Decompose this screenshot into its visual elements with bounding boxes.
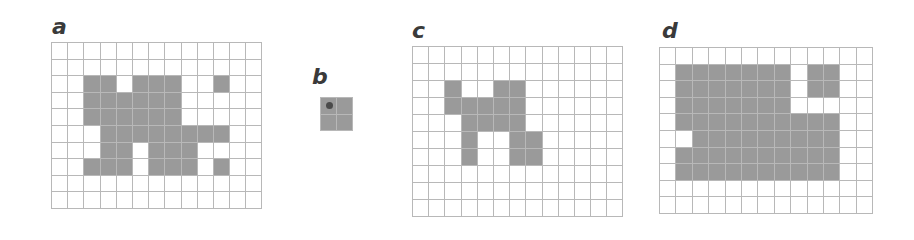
grid-cell (607, 47, 623, 64)
grid-cell (117, 192, 133, 209)
grid-a (51, 42, 262, 209)
grid-cell (337, 98, 353, 115)
grid-cell (758, 181, 774, 198)
grid-cell (857, 131, 873, 148)
grid-cell (660, 65, 676, 82)
grid-cell (607, 183, 623, 200)
grid-cell (230, 143, 246, 160)
grid-cell (575, 200, 591, 217)
grid-cell (413, 183, 429, 200)
grid-cell (742, 197, 758, 214)
grid-cell (101, 76, 117, 93)
grid-cell (117, 76, 133, 93)
grid-cell (149, 176, 165, 193)
grid-cell (230, 93, 246, 110)
grid-cell (117, 126, 133, 143)
grid-cell (526, 200, 542, 217)
grid-cell (591, 47, 607, 64)
grid-cell (52, 93, 68, 110)
grid-cell (52, 76, 68, 93)
grid-cell (101, 126, 117, 143)
grid-cell (149, 43, 165, 60)
grid-cell (133, 126, 149, 143)
grid-cell (775, 48, 791, 65)
grid-cell (543, 183, 559, 200)
grid-cell (791, 148, 807, 165)
grid-cell (726, 98, 742, 115)
grid-cell (693, 181, 709, 198)
grid-cell (246, 159, 262, 176)
grid-cell (709, 197, 725, 214)
grid-cell (607, 98, 623, 115)
grid-cell (101, 60, 117, 77)
grid-cell (840, 114, 856, 131)
grid-cell (726, 181, 742, 198)
grid-cell (693, 98, 709, 115)
grid-cell (246, 109, 262, 126)
grid-cell (462, 64, 478, 81)
grid-cell (462, 200, 478, 217)
grid-cell (117, 43, 133, 60)
grid-cell (182, 192, 198, 209)
grid-cell (660, 81, 676, 98)
grid-cell (660, 98, 676, 115)
grid-cell (607, 115, 623, 132)
grid-cell (709, 98, 725, 115)
grid-cell (510, 115, 526, 132)
grid-cell (413, 81, 429, 98)
grid-cell (246, 126, 262, 143)
grid-cell (709, 65, 725, 82)
grid-cell (52, 176, 68, 193)
grid-cell (117, 109, 133, 126)
grid-cell (165, 43, 181, 60)
grid-cell (591, 115, 607, 132)
grid-cell (429, 98, 445, 115)
grid-cell (808, 181, 824, 198)
grid-cell (660, 181, 676, 198)
grid-cell (824, 164, 840, 181)
grid-cell (824, 98, 840, 115)
grid-cell (246, 93, 262, 110)
grid-cell (857, 148, 873, 165)
grid-cell (791, 131, 807, 148)
grid-cell (246, 192, 262, 209)
grid-cell (214, 93, 230, 110)
grid-cell (84, 93, 100, 110)
grid-cell (510, 81, 526, 98)
grid-cell (840, 48, 856, 65)
grid-cell (591, 98, 607, 115)
grid-cell (230, 176, 246, 193)
grid-cell (462, 166, 478, 183)
grid-cell (857, 164, 873, 181)
grid-cell (445, 149, 461, 166)
grid-cell (510, 98, 526, 115)
grid-cell (742, 131, 758, 148)
grid-cell (68, 60, 84, 77)
grid-cell (149, 60, 165, 77)
grid-cell (214, 60, 230, 77)
grid-cell (575, 115, 591, 132)
grid-cell (84, 126, 100, 143)
grid-cell (462, 183, 478, 200)
grid-cell (791, 164, 807, 181)
grid-cell (413, 47, 429, 64)
grid-cell (559, 47, 575, 64)
grid-cell (133, 176, 149, 193)
grid-cell (791, 48, 807, 65)
grid-cell (742, 98, 758, 115)
grid-cell (543, 132, 559, 149)
grid-cell (133, 159, 149, 176)
grid-cell (526, 132, 542, 149)
grid-cell (591, 183, 607, 200)
grid-cell (133, 60, 149, 77)
grid-cell (165, 176, 181, 193)
grid-cell (693, 114, 709, 131)
grid-cell (445, 166, 461, 183)
grid-cell (591, 81, 607, 98)
grid-cell (52, 192, 68, 209)
grid-cell (840, 65, 856, 82)
grid-cell (526, 166, 542, 183)
grid-cell (445, 47, 461, 64)
grid-cell (198, 60, 214, 77)
grid-cell (52, 60, 68, 77)
